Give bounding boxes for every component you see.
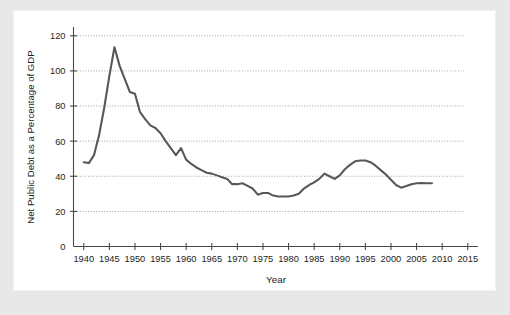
x-tick-label: 1960	[176, 254, 197, 264]
y-tick-label: 100	[50, 66, 66, 76]
x-tick-label: 1995	[355, 254, 376, 264]
x-tick-label: 2000	[381, 254, 402, 264]
x-axis-label: Year	[266, 274, 287, 285]
y-tick-label: 0	[60, 242, 65, 252]
x-tick-label: 2010	[432, 254, 453, 264]
y-tick-label: 60	[55, 137, 65, 147]
chart-plot-background	[14, 11, 495, 290]
x-tick-label: 1990	[329, 254, 350, 264]
x-tick-label: 1965	[201, 254, 222, 264]
screenshot-page: 020406080100120 194019451950195519601965…	[0, 0, 510, 315]
x-tick-label: 1950	[125, 254, 146, 264]
y-axis-label: Net Public Debt as a Percentage of GDP	[25, 50, 36, 223]
x-tick-label: 1945	[99, 254, 120, 264]
x-tick-label: 1970	[227, 254, 248, 264]
line-chart[interactable]: 020406080100120 194019451950195519601965…	[14, 11, 495, 290]
chart-figure: 020406080100120 194019451950195519601965…	[14, 11, 495, 290]
x-tick-label: 2005	[406, 254, 427, 264]
x-tick-label: 1985	[304, 254, 325, 264]
chart-card: 020406080100120 194019451950195519601965…	[14, 11, 495, 290]
y-tick-label: 120	[50, 31, 66, 41]
y-tick-label: 80	[55, 101, 65, 111]
x-tick-label: 2015	[457, 254, 478, 264]
x-tick-label: 1940	[73, 254, 94, 264]
x-tick-label: 1975	[253, 254, 274, 264]
x-tick-label: 1980	[278, 254, 299, 264]
x-tick-label: 1955	[150, 254, 171, 264]
y-tick-label: 20	[55, 207, 65, 217]
y-tick-label: 40	[55, 172, 65, 182]
